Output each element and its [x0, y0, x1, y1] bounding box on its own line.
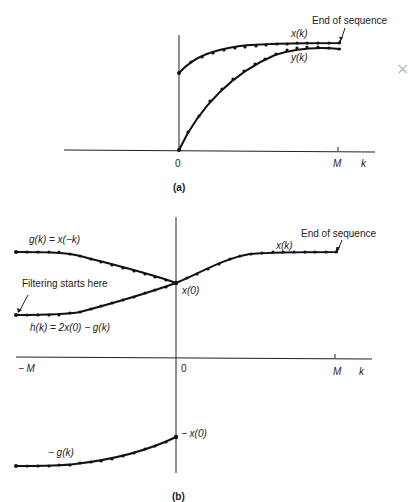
- panel-b-gk-points: [14, 250, 168, 282]
- panel-b-x0-label: x(0): [181, 285, 199, 296]
- panel-a: End of sequence x(k) y(k) 0 M k (a): [64, 15, 387, 193]
- panel-a-caption: (a): [173, 182, 185, 193]
- panel-b-xk-curve: [176, 249, 337, 283]
- panel-a-k-label: k: [361, 158, 367, 169]
- panel-b-x-axis: [16, 357, 372, 359]
- panel-a-xk-label: x(k): [290, 28, 308, 39]
- panel-b-origin-label: 0: [181, 363, 187, 374]
- figure-canvas: End of sequence x(k) y(k) 0 M k (a): [0, 0, 408, 502]
- panel-a-yk-label: y(k): [290, 52, 308, 63]
- panel-b-gk-label: g(k) = x(−k): [29, 234, 80, 245]
- panel-b-xk-points: [174, 250, 338, 285]
- panel-b-neg-x0-label: − x(0): [181, 428, 207, 439]
- panel-a-yk-curve: [179, 48, 340, 150]
- panel-b-M-label: M: [333, 366, 342, 377]
- panel-b-neg-gk-points: [14, 435, 178, 468]
- panel-a-x-axis: [64, 150, 375, 152]
- panel-b-neg-gk-curve: [16, 437, 176, 466]
- panel-a-M-label: M: [333, 158, 342, 169]
- panel-b-negM-label: − M: [18, 363, 36, 374]
- panel-b-hk-label: h(k) = 2x(0) − g(k): [30, 322, 110, 333]
- panel-b-start-label: Filtering starts here: [22, 278, 108, 289]
- panel-a-end-label: End of sequence: [312, 15, 387, 26]
- panel-a-origin-label: 0: [175, 158, 181, 169]
- panel-b-end-label: End of sequence: [301, 228, 376, 239]
- panel-b-caption: (b): [172, 491, 185, 502]
- panel-b-k-label: k: [359, 366, 365, 377]
- panel-a-yk-points: [177, 45, 341, 152]
- panel-a-xk-points: [177, 41, 341, 75]
- panel-b-xk-label: x(k): [275, 240, 293, 251]
- panel-b-hk-points: [14, 285, 168, 317]
- margin-mark-icon: ×: [396, 59, 408, 78]
- panel-b: End of sequence g(k) = x(−k) x(k) Filter…: [14, 217, 376, 502]
- panel-b-neg-gk-label: − g(k): [48, 447, 74, 458]
